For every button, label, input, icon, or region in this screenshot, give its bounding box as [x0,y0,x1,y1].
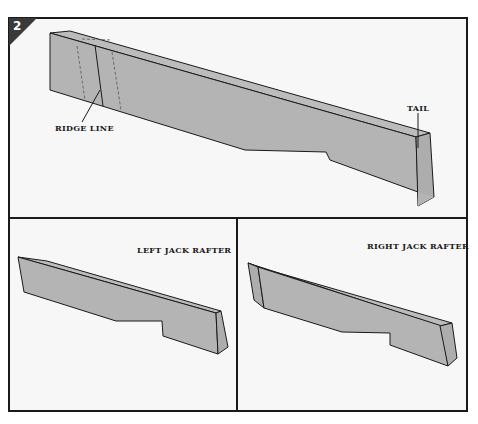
step-number: 2 [13,19,21,33]
tail-label: TAIL [407,103,429,113]
right-jack-rafter-title: RIGHT JACK RAFTER [367,241,469,251]
figure-canvas [0,0,478,424]
left-jack-rafter-title: LEFT JACK RAFTER [137,245,231,255]
ridge-line-label: RIDGE LINE [55,123,114,133]
